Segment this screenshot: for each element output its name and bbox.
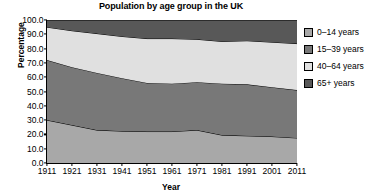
x-tick-label: 1981 (213, 167, 232, 176)
y-tick-mark (44, 77, 47, 78)
y-tick-mark (44, 34, 47, 35)
legend-swatch-icon (304, 79, 313, 88)
y-tick-label: 10.0 (27, 144, 44, 153)
y-tick-mark (44, 120, 47, 121)
y-tick-label: 70.0 (27, 59, 44, 68)
x-tick-mark (196, 163, 197, 166)
legend-item[interactable]: 15–39 years (304, 41, 384, 58)
x-tick-mark (221, 163, 222, 166)
x-tick-label: 2011 (288, 167, 306, 176)
x-tick-label: 1991 (238, 167, 257, 176)
x-tick-label: 1931 (88, 167, 107, 176)
x-tick-label: 1911 (38, 167, 56, 176)
y-tick-mark (44, 148, 47, 149)
x-tick-label: 1951 (138, 167, 157, 176)
legend-item[interactable]: 40–64 years (304, 58, 384, 75)
y-tick-mark (44, 48, 47, 49)
x-tick-label: 1941 (113, 167, 132, 176)
legend-swatch-icon (304, 28, 313, 37)
x-tick-mark (71, 163, 72, 166)
y-tick-label: 90.0 (27, 30, 44, 39)
y-tick-label: 80.0 (27, 44, 44, 53)
legend-item-label: 0–14 years (317, 28, 359, 37)
y-axis-label: Percentage (16, 22, 26, 68)
y-tick-mark (44, 62, 47, 63)
y-tick-mark (44, 134, 47, 135)
y-tick-label: 50.0 (27, 87, 44, 96)
y-tick-label: 60.0 (27, 73, 44, 82)
y-tick-mark (44, 91, 47, 92)
x-axis-label: Year (46, 182, 296, 192)
x-tick-mark (296, 163, 297, 166)
x-tick-mark (246, 163, 247, 166)
y-tick-label: 100.0 (22, 16, 43, 25)
x-tick-mark (171, 163, 172, 166)
legend-item-label: 65+ years (317, 79, 355, 88)
x-tick-mark (46, 163, 47, 166)
plot-area: Percentage 0.010.020.030.040.050.060.070… (46, 20, 297, 164)
legend-item[interactable]: 65+ years (304, 75, 384, 92)
legend-item-label: 15–39 years (317, 45, 364, 54)
stacked-area-plot (47, 20, 297, 163)
legend-item-label: 40–64 years (317, 62, 364, 71)
x-tick-label: 2001 (263, 167, 282, 176)
y-tick-label: 30.0 (27, 116, 44, 125)
x-tick-label: 1961 (163, 167, 182, 176)
x-tick-mark (121, 163, 122, 166)
x-tick-label: 1971 (188, 167, 207, 176)
legend-swatch-icon (304, 62, 313, 71)
x-tick-mark (146, 163, 147, 166)
y-tick-label: 40.0 (27, 102, 44, 111)
x-tick-mark (271, 163, 272, 166)
legend-swatch-icon (304, 45, 313, 54)
y-tick-mark (44, 19, 47, 20)
chart-title: Population by age group in the UK (46, 1, 296, 11)
x-tick-label: 1921 (63, 167, 82, 176)
y-tick-mark (44, 105, 47, 106)
chart-legend: 0–14 years15–39 years40–64 years65+ year… (304, 24, 384, 92)
x-tick-mark (96, 163, 97, 166)
chart-figure: Population by age group in the UK Percen… (0, 0, 384, 195)
y-tick-label: 20.0 (27, 130, 44, 139)
legend-item[interactable]: 0–14 years (304, 24, 384, 41)
